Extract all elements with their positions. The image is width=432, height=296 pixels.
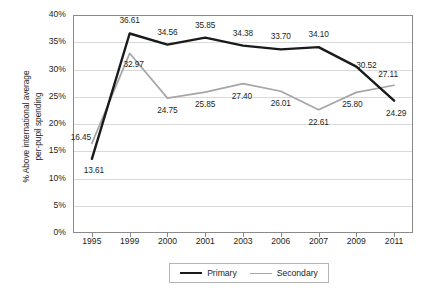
y-axis-tick-label: 10%: [32, 173, 66, 183]
data-label-secondary: 24.75: [149, 105, 185, 115]
y-axis-tick-label: 30%: [32, 64, 66, 74]
x-axis-tick-label: 2011: [372, 236, 416, 246]
data-label-primary: 35.85: [187, 20, 223, 30]
line-chart: % Above international average per-pupil …: [0, 0, 432, 296]
data-label-primary: 30.52: [348, 60, 384, 70]
y-axis-tick-label: 15%: [32, 145, 66, 155]
legend-item-secondary[interactable]: Secondary: [250, 268, 318, 278]
gridline: [74, 151, 412, 152]
data-label-secondary: 16.45: [63, 132, 99, 142]
data-label-secondary: 25.80: [334, 99, 370, 109]
data-label-secondary: 25.85: [187, 99, 223, 109]
y-axis-title-line1: % Above international average: [21, 32, 33, 222]
legend-label-primary: Primary: [207, 268, 237, 278]
chart-legend: Primary Secondary: [169, 263, 329, 283]
data-label-primary: 36.61: [112, 15, 148, 25]
gridline: [74, 179, 412, 180]
legend-item-primary[interactable]: Primary: [180, 268, 237, 278]
data-label-secondary: 32.97: [116, 59, 152, 69]
y-axis-tick-label: 40%: [32, 9, 66, 19]
y-axis-tick-label: 0%: [32, 227, 66, 237]
legend-label-secondary: Secondary: [277, 268, 318, 278]
y-axis-tick-label: 5%: [32, 200, 66, 210]
data-label-secondary: 27.11: [370, 69, 406, 79]
data-label-primary: 33.70: [263, 31, 299, 41]
data-label-primary: 24.29: [378, 108, 414, 118]
data-label-primary: 34.56: [149, 27, 185, 37]
legend-swatch-secondary-icon: [250, 273, 272, 274]
gridline: [74, 42, 412, 43]
y-axis-tick-label: 25%: [32, 91, 66, 101]
data-label-primary: 34.10: [301, 29, 337, 39]
data-label-primary: 34.38: [225, 28, 261, 38]
data-label-primary: 13.61: [76, 165, 112, 175]
data-label-secondary: 22.61: [301, 117, 337, 127]
plot-area: [73, 15, 413, 233]
legend-swatch-primary-icon: [180, 272, 202, 274]
y-axis-tick-label: 20%: [32, 118, 66, 128]
gridline: [74, 124, 412, 125]
gridline: [74, 206, 412, 207]
data-label-secondary: 26.01: [263, 98, 299, 108]
y-axis-tick-label: 35%: [32, 36, 66, 46]
data-label-secondary: 27.40: [224, 91, 260, 101]
